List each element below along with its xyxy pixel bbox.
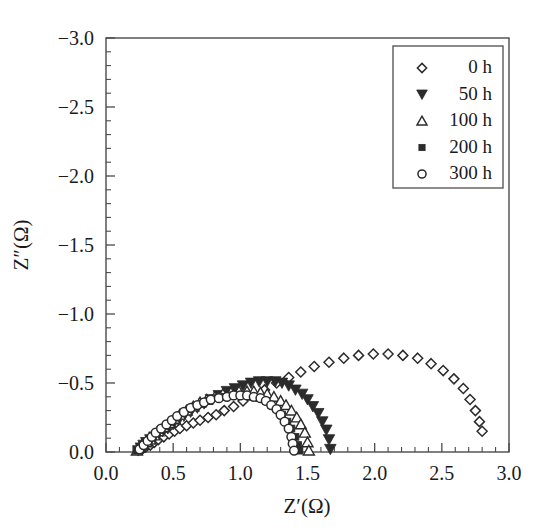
y-tick-label: −1.0 <box>58 303 94 325</box>
y-tick-label: −1.5 <box>58 234 94 256</box>
nyquist-plot-figure: 0.00.51.01.52.02.53.0 −3.0−2.5−2.0−1.5−1… <box>0 0 548 532</box>
x-tick-label: 1.5 <box>295 462 320 484</box>
legend-marker-filled-square-icon <box>419 144 425 150</box>
data-point-open-diamond <box>413 353 423 363</box>
x-tick-label: 0.5 <box>161 462 186 484</box>
data-point-open-diamond <box>339 353 349 363</box>
y-tick-label: −2.0 <box>58 165 94 187</box>
data-point-open-diamond <box>229 401 239 411</box>
data-point-open-circle <box>206 395 215 404</box>
legend-marker-open-circle-icon <box>418 170 426 178</box>
data-point-open-triangle-up <box>302 437 313 447</box>
chart-canvas: 0.00.51.01.52.02.53.0 −3.0−2.5−2.0−1.5−1… <box>0 0 548 532</box>
data-series-group <box>131 349 487 456</box>
data-point-open-diamond <box>470 406 480 416</box>
data-point-open-diamond <box>296 367 306 377</box>
y-tick-label: −2.5 <box>58 96 94 118</box>
data-point-open-diamond <box>426 359 436 369</box>
data-point-open-diamond <box>324 357 334 367</box>
legend-label: 200 h <box>449 136 492 157</box>
data-point-open-circle <box>214 394 223 403</box>
data-point-open-diamond <box>368 349 378 359</box>
data-point-open-diamond <box>383 349 393 359</box>
y-axis-tick-labels: −3.0−2.5−2.0−1.5−1.0−0.50.0 <box>58 27 94 463</box>
data-point-open-circle <box>284 424 293 433</box>
data-point-open-diamond <box>438 366 448 376</box>
data-point-open-diamond <box>465 395 475 405</box>
x-tick-label: 2.5 <box>429 462 454 484</box>
data-point-open-diamond <box>309 361 319 371</box>
data-point-filled-triangle-down <box>321 425 333 435</box>
data-point-open-diamond <box>354 350 364 360</box>
y-tick-label: −3.0 <box>58 27 94 49</box>
data-point-open-diamond <box>398 350 408 360</box>
y-axis-title: Z″(Ω) <box>9 219 33 270</box>
data-point-open-circle <box>290 446 299 455</box>
legend-label: 100 h <box>449 109 492 130</box>
legend: 0 h50 h100 h200 h300 h <box>393 46 503 188</box>
data-point-open-diamond <box>474 417 484 427</box>
x-tick-label: 2.0 <box>362 462 387 484</box>
legend-label: 300 h <box>449 162 492 183</box>
y-tick-label: 0.0 <box>69 441 94 463</box>
data-point-open-diamond <box>458 384 468 394</box>
x-axis-tick-labels: 0.00.51.01.52.02.53.0 <box>94 462 522 484</box>
legend-label: 50 h <box>459 83 493 104</box>
x-axis-title: Z′(Ω) <box>283 494 330 518</box>
x-tick-label: 3.0 <box>497 462 522 484</box>
data-point-filled-triangle-down <box>323 435 335 445</box>
legend-label: 0 h <box>468 56 492 77</box>
data-point-open-diamond <box>449 374 459 384</box>
x-tick-label: 1.0 <box>228 462 253 484</box>
x-tick-label: 0.0 <box>94 462 119 484</box>
data-point-open-diamond <box>477 426 487 436</box>
y-tick-label: −0.5 <box>58 372 94 394</box>
